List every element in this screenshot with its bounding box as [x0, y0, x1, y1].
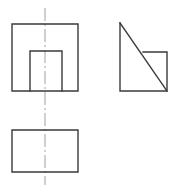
- orthographic-drawing-canvas: [0, 0, 175, 192]
- side-view: [120, 23, 167, 91]
- drawing-sheet: [0, 0, 175, 192]
- side-view-diagonal-edge: [120, 23, 167, 91]
- front-view-inner-rectangle: [30, 51, 62, 91]
